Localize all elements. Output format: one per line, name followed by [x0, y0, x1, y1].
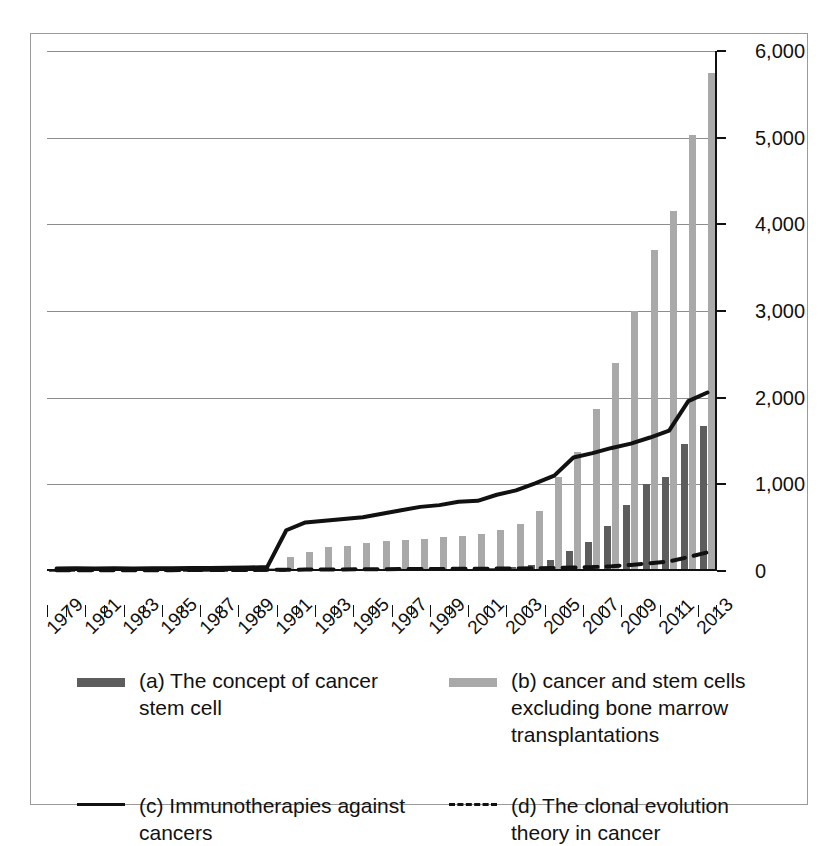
x-axis-tick-label: 1997	[387, 594, 430, 637]
legend-label-c-line1: (c) Immunotherapies against	[139, 792, 405, 819]
legend-label-b-line1: (b) cancer and stem cells	[511, 667, 746, 694]
y-axis-tick-label: 6,000	[755, 41, 805, 61]
bar-dark-swatch-icon	[77, 678, 125, 687]
x-axis-tick-label: 1993	[311, 594, 354, 637]
plot-area	[47, 51, 717, 571]
x-axis-tick-label: 2003	[502, 594, 545, 637]
legend-label-a-line1: (a) The concept of cancer	[139, 667, 378, 694]
dashed-line-swatch-icon	[449, 803, 497, 806]
x-axis-tick-label: 1979	[43, 594, 86, 637]
y-axis-tick-label: 1,000	[755, 474, 805, 494]
x-axis-tick-label: 2005	[540, 594, 583, 637]
legend-item-c[interactable]: (c) Immunotherapies against cancers	[77, 792, 437, 846]
x-axis-line	[47, 569, 717, 571]
y-axis-tick	[717, 483, 726, 485]
legend-label-b-line3: transplantations	[511, 721, 746, 748]
line-series-c	[57, 392, 708, 568]
legend-label-b: (b) cancer and stem cells excluding bone…	[511, 667, 746, 748]
x-axis-tick-label: 2009	[617, 594, 660, 637]
legend-swatch-d-wrap	[449, 792, 511, 806]
legend-label-a: (a) The concept of cancer stem cell	[139, 667, 378, 721]
x-axis-tick-label: 1983	[119, 594, 162, 637]
solid-line-swatch-icon	[77, 803, 125, 806]
legend-label-c: (c) Immunotherapies against cancers	[139, 792, 405, 846]
x-axis-tick-label: 1989	[234, 594, 277, 637]
y-axis-tick	[717, 310, 726, 312]
legend-swatch-c-wrap	[77, 792, 139, 806]
y-axis-tick	[717, 223, 726, 225]
legend-item-b[interactable]: (b) cancer and stem cells excluding bone…	[437, 667, 797, 748]
legend-label-c-line2: cancers	[139, 819, 405, 846]
legend-label-d: (d) The clonal evolution theory in cance…	[511, 792, 729, 846]
figure-frame: 01,0002,0003,0004,0005,0006,000 19791981…	[30, 33, 808, 805]
y-axis-tick	[717, 397, 726, 399]
y-axis-tick	[717, 570, 726, 572]
x-axis-tick-label: 2013	[693, 594, 736, 637]
legend-row-2: (c) Immunotherapies against cancers (d) …	[77, 792, 797, 846]
y-axis-tick-label: 0	[755, 561, 766, 581]
x-axis-tick-label: 2007	[579, 594, 622, 637]
x-axis-tick-label: 1985	[157, 594, 200, 637]
legend-item-a[interactable]: (a) The concept of cancer stem cell	[77, 667, 437, 748]
x-axis-tick	[47, 605, 48, 617]
y-axis-tick-label: 4,000	[755, 214, 805, 234]
legend-label-a-line2: stem cell	[139, 694, 378, 721]
x-axis-tick-label: 1999	[425, 594, 468, 637]
y-axis-tick	[717, 50, 726, 52]
y-axis-tick-label: 3,000	[755, 301, 805, 321]
x-axis-tick-label: 2011	[655, 595, 697, 637]
line-series-layer	[47, 51, 717, 571]
chart-legend: (a) The concept of cancer stem cell (b) …	[77, 667, 797, 846]
legend-row-1: (a) The concept of cancer stem cell (b) …	[77, 667, 797, 748]
y-axis-tick-label: 2,000	[755, 388, 805, 408]
x-axis-tick-label: 2001	[464, 594, 507, 637]
legend-swatch-a-wrap	[77, 667, 139, 687]
y-axis-tick	[717, 137, 726, 139]
legend-item-d[interactable]: (d) The clonal evolution theory in cance…	[437, 792, 797, 846]
legend-label-b-line2: excluding bone marrow	[511, 694, 746, 721]
legend-label-d-line2: theory in cancer	[511, 819, 729, 846]
x-axis-tick-label: 1987	[196, 594, 239, 637]
legend-swatch-b-wrap	[449, 667, 511, 687]
x-axis-tick-label: 1995	[349, 594, 392, 637]
bar-light-swatch-icon	[449, 678, 497, 687]
x-axis-tick-label: 1991	[272, 594, 315, 637]
x-axis-tick-label: 1981	[81, 594, 124, 637]
y-axis-tick-label: 5,000	[755, 128, 805, 148]
legend-label-d-line1: (d) The clonal evolution	[511, 792, 729, 819]
